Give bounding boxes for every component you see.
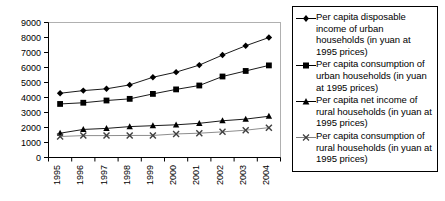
- data-series: [57, 113, 272, 136]
- y-axis-tick-labels: 0100020003000400050006000700080009000: [21, 18, 41, 163]
- x-tick-label: 1996: [75, 165, 85, 185]
- x-tick-label: 2001: [191, 165, 201, 185]
- x-tick-label: 2000: [168, 165, 178, 185]
- y-tick-label: 0: [36, 153, 41, 163]
- x-tick-label: 1999: [145, 165, 155, 185]
- y-tick-label: 2000: [21, 123, 41, 133]
- x-tick-label: 1998: [122, 165, 132, 185]
- square-marker-icon: [296, 59, 316, 72]
- plot-canvas: 0100020003000400050006000700080009000 19…: [0, 0, 285, 201]
- y-tick-label: 8000: [21, 33, 41, 43]
- y-tick-label: 7000: [21, 48, 41, 58]
- data-series: [57, 63, 272, 107]
- data-series-layer: [57, 34, 272, 139]
- x-tick-label: 2002: [215, 165, 225, 185]
- legend-item-label: Per capita consumption of rural househol…: [316, 130, 434, 165]
- legend-item-label: Per capita disposable income of urban ho…: [316, 11, 434, 57]
- x-axis-tick-labels: 1995199619971998199920002001200220032004: [52, 165, 271, 185]
- y-tick-label: 5000: [21, 78, 41, 88]
- legend-item-urban-consumption[interactable]: Per capita consumption of urban househol…: [296, 58, 434, 93]
- x-tick-label: 1997: [99, 165, 109, 185]
- legend-item-label: Per capita net income of rural household…: [316, 94, 434, 129]
- cross-marker-icon: [296, 131, 316, 144]
- x-tick-label: 2003: [238, 165, 248, 185]
- data-series: [57, 125, 272, 140]
- y-tick-label: 6000: [21, 63, 41, 73]
- legend-item-label: Per capita consumption of urban househol…: [316, 58, 434, 93]
- x-tick-label: 2004: [261, 165, 271, 185]
- legend-item-rural-net-income[interactable]: Per capita net income of rural household…: [296, 94, 434, 129]
- y-tick-label: 4000: [21, 93, 41, 103]
- y-tick-label: 9000: [21, 18, 41, 28]
- y-tick-label: 1000: [21, 138, 41, 148]
- y-tick-label: 3000: [21, 108, 41, 118]
- legend-item-urban-disposable-income[interactable]: Per capita disposable income of urban ho…: [296, 11, 434, 57]
- chart-page: 0100020003000400050006000700080009000 19…: [0, 0, 445, 201]
- y-axis-ticks: [44, 23, 49, 158]
- diamond-marker-icon: [296, 12, 316, 25]
- data-series: [57, 34, 272, 96]
- triangle-marker-icon: [296, 95, 316, 108]
- x-tick-label: 1995: [52, 165, 62, 185]
- chart-legend: Per capita disposable income of urban ho…: [292, 6, 438, 172]
- x-axis-ticks: [49, 158, 281, 162]
- line-chart: 0100020003000400050006000700080009000 19…: [0, 0, 285, 201]
- legend-item-rural-consumption[interactable]: Per capita consumption of rural househol…: [296, 130, 434, 165]
